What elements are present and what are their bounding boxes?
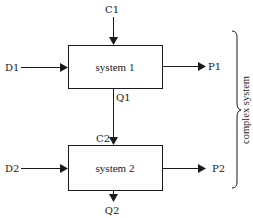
system-2-label: system 2 — [96, 162, 135, 174]
arrowhead-right-icon — [60, 164, 68, 173]
d1-label: D1 — [5, 62, 19, 73]
complex-system-label: complex system — [240, 76, 251, 144]
q1-label: Q1 — [116, 92, 131, 103]
arrowhead-down-icon — [109, 137, 118, 145]
c1-input-arrow: C1 — [105, 4, 119, 45]
arrowhead-down-icon — [109, 194, 118, 202]
complex-system-group: complex system — [232, 31, 251, 188]
d2-label: D2 — [5, 163, 19, 174]
q2-label: Q2 — [105, 205, 120, 216]
arrowhead-right-icon — [198, 164, 206, 173]
arrowhead-down-icon — [109, 37, 118, 45]
complex-system-diagram: system 1 system 2 C1 D1 P1 Q1 C2 D2 — [0, 0, 253, 218]
q2-output-arrow: Q2 — [105, 191, 120, 217]
c2-label: C2 — [96, 133, 110, 144]
q1-c2-connector-arrow: Q1 C2 — [96, 89, 131, 146]
system-2-block: system 2 — [69, 146, 163, 191]
arrowhead-right-icon — [198, 62, 206, 71]
p2-label: P2 — [212, 163, 225, 174]
p1-output-arrow: P1 — [163, 61, 222, 72]
p1-label: P1 — [208, 61, 221, 72]
c1-label: C1 — [105, 4, 119, 15]
d2-input-arrow: D2 — [5, 163, 68, 174]
system-1-block: system 1 — [69, 46, 163, 89]
arrowhead-right-icon — [60, 63, 68, 72]
system-1-label: system 1 — [96, 61, 135, 73]
d1-input-arrow: D1 — [5, 62, 68, 73]
p2-output-arrow: P2 — [163, 163, 226, 174]
